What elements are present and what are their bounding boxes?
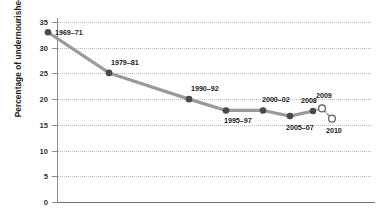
gridline-30 (58, 48, 371, 49)
y-tick-25 (52, 73, 58, 74)
data-point-2005–07 (287, 113, 294, 120)
y-tick-label-5: 5 (8, 172, 48, 181)
gridline-35 (58, 22, 371, 23)
gridline-15 (58, 125, 371, 126)
y-tick-label-35: 35 (8, 18, 48, 27)
y-tick-label-10: 10 (8, 147, 48, 156)
chart-container: Percentage of undernourished 05101520253… (0, 0, 383, 215)
y-axis-line (57, 18, 58, 203)
data-point-1995–97 (223, 107, 230, 114)
data-point-markers (45, 29, 336, 122)
point-label-1979–81: 1979–81 (111, 58, 139, 67)
gridline-5 (58, 176, 371, 177)
data-point-1969–71 (45, 29, 52, 36)
y-tick-20 (52, 99, 58, 100)
point-label-2005–07: 2005–07 (286, 123, 314, 132)
y-tick-label-0: 0 (8, 198, 48, 207)
y-tick-0 (52, 202, 58, 203)
y-tick-15 (52, 125, 58, 126)
point-label-1995–97: 1995–97 (224, 116, 252, 125)
y-tick-label-25: 25 (8, 69, 48, 78)
y-tick-5 (52, 176, 58, 177)
point-label-2008: 2008 (301, 96, 317, 105)
point-label-2009: 2009 (316, 91, 332, 100)
gridline-25 (58, 73, 371, 74)
x-axis-line (57, 202, 375, 203)
y-tick-30 (52, 48, 58, 49)
y-tick-label-20: 20 (8, 95, 48, 104)
point-label-1990–92: 1990–92 (191, 84, 219, 93)
point-label-2000–02: 2000–02 (262, 95, 290, 104)
y-tick-10 (52, 151, 58, 152)
point-label-2010: 2010 (326, 126, 342, 135)
point-label-1969–71: 1969–71 (55, 28, 83, 37)
data-point-2010 (329, 115, 336, 122)
y-tick-35 (52, 22, 58, 23)
y-tick-label-30: 30 (8, 44, 48, 53)
estimate-line (313, 108, 332, 118)
data-point-2009 (319, 105, 326, 112)
data-point-2008 (310, 108, 317, 115)
y-tick-label-15: 15 (8, 121, 48, 130)
gridline-10 (58, 151, 371, 152)
data-point-2000–02 (260, 107, 267, 114)
